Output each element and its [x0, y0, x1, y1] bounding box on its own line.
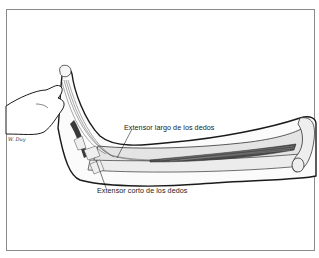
hand-outline [6, 85, 64, 134]
label-extensor-corto: Extensor corto de los dedos [97, 186, 187, 195]
label-extensor-largo: Extensor largo de los dedos [124, 123, 214, 132]
fibula-head [292, 158, 304, 172]
artist-signature: W. Duy [8, 136, 26, 142]
toe-tip [60, 65, 71, 77]
